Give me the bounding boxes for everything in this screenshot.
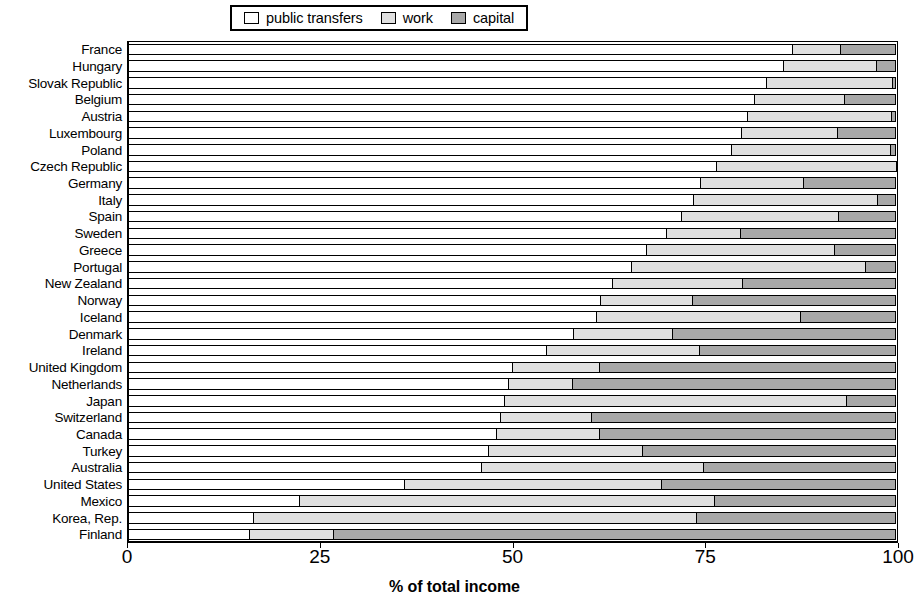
bar-segment-work [792, 44, 841, 56]
bar-row [127, 44, 898, 56]
plot-area [127, 41, 898, 543]
bar-row [127, 529, 898, 541]
y-axis-label: Denmark [0, 328, 122, 342]
bar-segment-capital [599, 428, 896, 440]
square-swatch [381, 12, 396, 24]
bar-segment-public-transfers [127, 111, 748, 123]
bar-segment-public-transfers [127, 428, 497, 440]
bar-segment-capital [892, 77, 896, 89]
bar-segment-public-transfers [127, 445, 489, 457]
bar-segment-capital [840, 44, 896, 56]
bar-segment-capital [703, 462, 896, 474]
bar-segment-work [631, 261, 866, 273]
bar-segment-public-transfers [127, 60, 784, 72]
bar-row [127, 161, 898, 173]
bar-segment-public-transfers [127, 261, 632, 273]
bar-segment-capital [837, 127, 896, 139]
y-axis-label: Sweden [0, 227, 122, 241]
bar-row [127, 194, 898, 206]
bar-segment-public-transfers [127, 244, 647, 256]
y-axis-labels: FranceHungarySlovak RepublicBelgiumAustr… [0, 41, 122, 543]
legend-label: public transfers [266, 11, 363, 26]
bar-segment-public-transfers [127, 362, 513, 374]
bar-segment-capital [834, 244, 896, 256]
bar-segment-work [700, 177, 804, 189]
bar-segment-public-transfers [127, 395, 505, 407]
bar-segment-capital [890, 144, 896, 156]
bar-segment-capital [876, 60, 896, 72]
bar-row [127, 345, 898, 357]
bar-row [127, 77, 898, 89]
y-axis-label: Australia [0, 461, 122, 475]
bar-segment-capital [742, 278, 896, 290]
bar-row [127, 311, 898, 323]
bar-segment-capital [591, 412, 896, 424]
bar-segment-capital [891, 111, 896, 123]
bar-row [127, 60, 898, 72]
bar-segment-capital [803, 177, 896, 189]
bar-segment-capital [692, 295, 896, 307]
y-axis-label: Ireland [0, 344, 122, 358]
y-axis-label: Czech Republic [0, 160, 122, 174]
bar-row [127, 261, 898, 273]
bar-row [127, 295, 898, 307]
bar-row [127, 111, 898, 123]
legend-entry-public-transfers: public transfers [244, 11, 363, 26]
bar-segment-capital [838, 211, 896, 223]
bar-segment-public-transfers [127, 462, 482, 474]
bar-segment-capital [599, 362, 896, 374]
y-axis-label: Germany [0, 177, 122, 191]
bar-segment-work [253, 512, 696, 524]
chart-legend: public transfersworkcapital [230, 5, 528, 31]
bar-segment-public-transfers [127, 495, 300, 507]
bar-row [127, 244, 898, 256]
bar-row [127, 445, 898, 457]
y-axis-label: Turkey [0, 445, 122, 459]
y-axis-label: France [0, 43, 122, 57]
legend-label: capital [473, 11, 514, 26]
bar-segment-work [504, 395, 847, 407]
bar-segment-capital [865, 261, 896, 273]
bar-segment-capital [661, 479, 896, 491]
y-axis-label: Luxembourg [0, 127, 122, 141]
y-axis-label: United Kingdom [0, 361, 122, 375]
bar-segment-capital [740, 228, 896, 240]
bar-row [127, 177, 898, 189]
y-axis-label: Portugal [0, 261, 122, 275]
y-axis-label: Norway [0, 294, 122, 308]
bar-segment-work [681, 211, 839, 223]
y-axis-label: Korea, Rep. [0, 512, 122, 526]
bar-segment-work [500, 412, 593, 424]
bar-segment-public-transfers [127, 127, 742, 139]
x-tick-label: 100 [882, 547, 914, 566]
bar-segment-work [747, 111, 892, 123]
bar-row [127, 362, 898, 374]
bar-segment-work [600, 295, 693, 307]
bar-segment-capital [714, 495, 896, 507]
bar-segment-public-transfers [127, 479, 405, 491]
bar-segment-capital [846, 395, 896, 407]
square-swatch [244, 12, 259, 24]
bar-segment-work [783, 60, 877, 72]
bar-segment-public-transfers [127, 311, 597, 323]
y-axis-label: New Zealand [0, 277, 122, 291]
y-axis-label: Greece [0, 244, 122, 258]
bar-row [127, 395, 898, 407]
bar-segment-public-transfers [127, 278, 613, 290]
bar-segment-capital [572, 378, 896, 390]
bar-segment-work [488, 445, 642, 457]
x-tick-label: 50 [502, 547, 523, 566]
legend-entry-capital: capital [451, 11, 514, 26]
y-axis-label: Iceland [0, 311, 122, 325]
y-axis-label: Slovak Republic [0, 77, 122, 91]
bar-segment-work [754, 94, 845, 106]
bar-segment-work [741, 127, 837, 139]
bar-segment-work [512, 362, 601, 374]
bar-row [127, 412, 898, 424]
bar-segment-work [573, 328, 673, 340]
bar-segment-capital [800, 311, 896, 323]
bar-segment-capital [844, 94, 896, 106]
bar-segment-public-transfers [127, 378, 509, 390]
bar-row [127, 495, 898, 507]
